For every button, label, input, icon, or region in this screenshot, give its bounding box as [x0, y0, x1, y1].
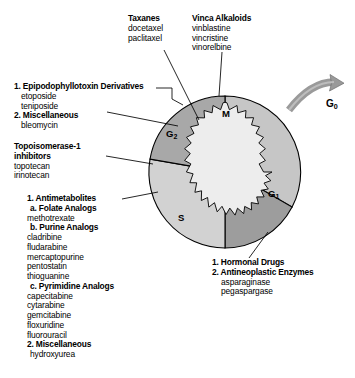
annotation-g2-agents: 1. Epipodophyllotoxin Derivatives etopos… [14, 82, 144, 131]
phase-label-g2: G2 [166, 128, 177, 139]
annotation-vinca-alkaloids: Vinca Alkaloids vinblastine vincristine … [192, 14, 251, 53]
annotation-g1-agents: 1. Hormonal Drugs 2. Antineoplastic Enzy… [212, 258, 314, 297]
phase-label-g0: G0 [326, 98, 338, 109]
annotation-topoisomerase-inhibitors: Topoisomerase-1 inhibitors topotecan iri… [14, 142, 80, 181]
taxanes-drug: paclitaxel [128, 34, 163, 44]
annotation-taxanes: Taxanes docetaxel paclitaxel [128, 14, 163, 43]
leader-topoisomerase [106, 156, 153, 164]
g2-miscellaneous-drug: bleomycin [14, 121, 144, 131]
vinca-drug: vinorelbine [192, 43, 251, 53]
antineoplastic-enzymes-drug: pegaspargase [212, 287, 314, 297]
s-miscellaneous-drug: hydroxyurea [18, 350, 114, 360]
annotation-s-phase-agents: 1. Antimetabolites a. Folate Analogs met… [18, 194, 114, 360]
leader-vinca [219, 52, 222, 96]
cell-cycle-diagram: M G1 S G2 G0 Taxanes docetaxel paclitaxe… [0, 0, 355, 378]
leader-epipodophyllotoxin [156, 88, 183, 105]
phase-label-s: S [178, 212, 184, 223]
phase-label-g1: G1 [268, 188, 279, 199]
phase-label-m: M [222, 108, 230, 119]
topoisomerase-drug: irinotecan [14, 171, 80, 181]
